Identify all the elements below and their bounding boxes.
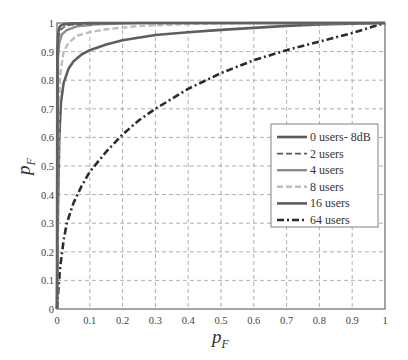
legend-label: 2 users (310, 147, 344, 161)
legend-label: 8 users (310, 180, 344, 194)
y-tick-label: 0.1 (41, 275, 54, 286)
y-tick-label: 0.3 (41, 218, 54, 229)
y-tick-label: 1 (49, 18, 54, 29)
x-tick-label: 0.7 (280, 315, 293, 326)
x-tick-label: 0.5 (214, 315, 227, 326)
x-tick-label: 1 (382, 315, 387, 326)
x-tick-label: 0.3 (149, 315, 162, 326)
x-tick-label: 0.4 (182, 315, 196, 326)
x-axis-label-sub: F (221, 337, 230, 351)
x-axis-ticks: 00.10.20.30.40.50.60.70.80.91 (54, 315, 387, 326)
y-axis-label-main: p (13, 166, 34, 178)
y-axis-ticks: 00.10.20.30.40.50.60.70.80.91 (41, 18, 55, 315)
roc-chart: 00.10.20.30.40.50.60.70.80.91 00.10.20.3… (0, 0, 408, 360)
y-tick-label: 0.7 (41, 104, 54, 115)
legend-label: 16 users (310, 196, 350, 210)
legend-label: 4 users (310, 163, 344, 177)
x-tick-label: 0 (54, 315, 59, 326)
y-axis-label: pF (13, 158, 38, 178)
legend-label: 0 users- 8dB (310, 130, 371, 144)
x-tick-label: 0.1 (83, 315, 96, 326)
x-axis-label: pF (210, 326, 230, 351)
y-axis-label-sub: F (24, 158, 38, 167)
x-tick-label: 0.6 (247, 315, 260, 326)
y-tick-label: 0.2 (41, 247, 54, 258)
y-tick-label: 0.9 (41, 47, 54, 58)
y-tick-label: 0.6 (41, 132, 54, 143)
x-tick-label: 0.8 (313, 315, 326, 326)
legend-label: 64 users (310, 213, 350, 227)
x-tick-label: 0.9 (346, 315, 359, 326)
legend: 0 users- 8dB2 users4 users8 users16 user… (271, 124, 378, 227)
y-tick-label: 0 (49, 304, 54, 315)
x-axis-label-main: p (210, 326, 222, 347)
y-tick-label: 0.5 (41, 161, 54, 172)
y-tick-label: 0.8 (41, 75, 54, 86)
y-tick-label: 0.4 (41, 190, 55, 201)
x-tick-label: 0.2 (116, 315, 129, 326)
